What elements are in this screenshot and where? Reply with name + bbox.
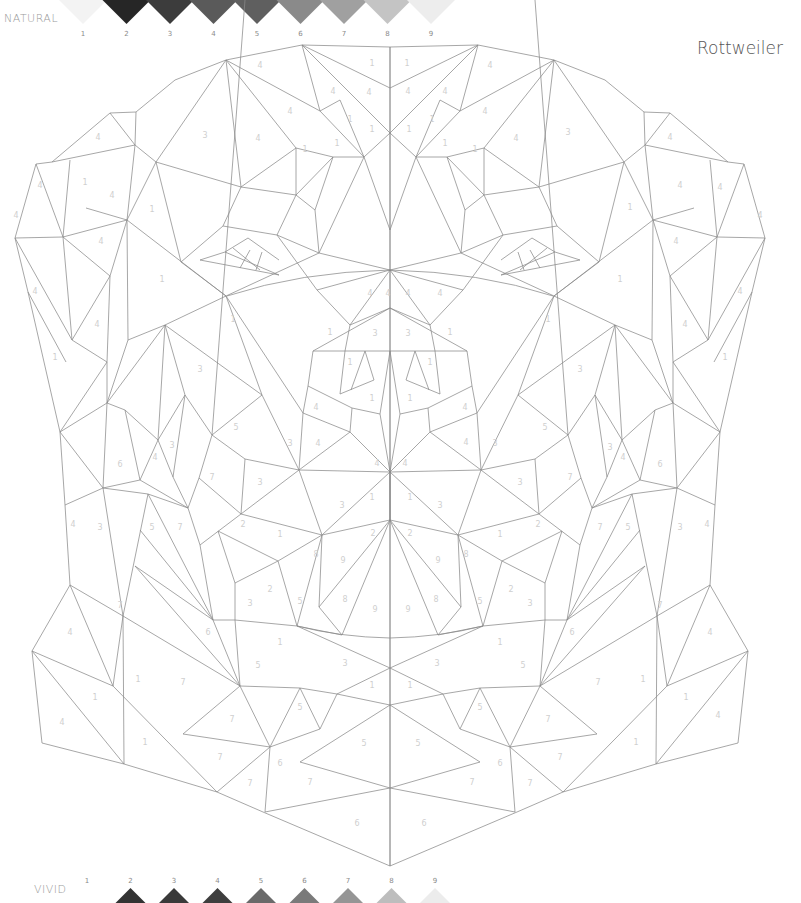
region-number: 3	[342, 659, 347, 668]
region-number: 1	[230, 315, 235, 324]
region-number: 5	[233, 423, 238, 432]
region-number: 5	[625, 523, 630, 532]
region-number: 4	[152, 453, 157, 462]
vivid-swatch-number: 1	[85, 877, 89, 885]
natural-swatch-number: 7	[342, 30, 346, 38]
region-number: 1	[92, 693, 97, 702]
region-number: 7	[247, 779, 252, 788]
region-number: 9	[340, 556, 345, 565]
region-number: 4	[98, 237, 103, 246]
region-number: 7	[117, 601, 122, 610]
region-number: 1	[404, 59, 409, 68]
region-number: 4	[366, 88, 371, 97]
region-number: 6	[354, 819, 359, 828]
region-number: 4	[513, 134, 518, 143]
region-number: 7	[567, 473, 572, 482]
drawing-left-half	[15, 0, 390, 866]
vivid-swatch-number: 4	[215, 877, 220, 885]
region-number: 7	[545, 715, 550, 724]
region-number: 5	[297, 703, 302, 712]
region-number: 1	[407, 493, 412, 502]
region-number: 4	[109, 191, 114, 200]
region-number: 3	[577, 365, 582, 374]
region-number: 1	[472, 145, 477, 154]
region-number: 3	[405, 329, 410, 338]
region-number: 4	[374, 459, 379, 468]
region-number: 3	[197, 365, 202, 374]
region-number: 8	[463, 550, 468, 559]
region-number: 4	[463, 438, 468, 447]
region-number: 5	[477, 703, 482, 712]
natural-swatch-5	[233, 0, 281, 24]
region-number: 3	[677, 523, 682, 532]
region-number: 7	[180, 678, 185, 687]
region-number: 5	[520, 661, 525, 670]
region-number: 4	[313, 403, 318, 412]
region-number: 5	[297, 597, 302, 606]
region-number: 6	[421, 819, 426, 828]
natural-swatch-number: 3	[168, 30, 172, 38]
region-number: 4	[402, 459, 407, 468]
region-number: 4	[330, 87, 335, 96]
vivid-swatch-9	[420, 888, 450, 903]
region-number: 1	[633, 738, 638, 747]
region-number: 6	[117, 460, 122, 469]
region-number: 1	[369, 493, 374, 502]
region-number: 4	[70, 520, 75, 529]
region-number: 7	[469, 778, 474, 787]
region-number: 4	[737, 287, 742, 296]
region-number: 1	[497, 530, 502, 539]
region-number: 1	[277, 638, 282, 647]
region-number: 4	[717, 183, 722, 192]
region-number: 3	[565, 128, 570, 137]
natural-swatch-number: 5	[255, 30, 259, 38]
region-number: 7	[217, 753, 222, 762]
region-number: 3	[527, 599, 532, 608]
region-number: 1	[159, 275, 164, 284]
region-number: 1	[302, 145, 307, 154]
natural-swatch-9	[407, 0, 455, 24]
region-number: 1	[135, 675, 140, 684]
region-number: 4	[482, 107, 487, 116]
region-number: 3	[492, 439, 497, 448]
region-number: 6	[497, 759, 502, 768]
region-number: 4	[715, 711, 720, 720]
region-number: 1	[442, 139, 447, 148]
region-number: 2	[535, 520, 540, 529]
region-number: 1	[640, 675, 645, 684]
region-number: 1	[722, 353, 727, 362]
region-number: 1	[334, 139, 339, 148]
region-number: 7	[209, 473, 214, 482]
natural-swatch-6	[277, 0, 325, 24]
natural-swatch-1	[59, 0, 107, 24]
region-number: 4	[95, 133, 100, 142]
region-number: 4	[32, 287, 37, 296]
region-number: 3	[437, 501, 442, 510]
region-number: 3	[372, 329, 377, 338]
region-number: 4	[757, 211, 762, 220]
region-number: 5	[255, 661, 260, 670]
region-number: 1	[429, 115, 434, 124]
region-number: 3	[607, 443, 612, 452]
natural-palette-swatches: 123456789	[59, 0, 455, 38]
region-number: 1	[407, 681, 412, 690]
vivid-swatch-7	[333, 888, 363, 903]
region-number: 2	[267, 585, 272, 594]
region-number: 1	[427, 358, 432, 367]
region-number: 1	[369, 394, 374, 403]
region-number: 4	[677, 181, 682, 190]
region-number: 4	[287, 107, 292, 116]
region-number: 1	[82, 178, 87, 187]
region-number: 4	[315, 439, 320, 448]
region-number: 4	[37, 181, 42, 190]
region-number: 5	[149, 523, 154, 532]
vivid-swatch-4	[203, 888, 233, 903]
region-number: 6	[569, 628, 574, 637]
drawing-right-half	[390, 0, 765, 866]
region-number: 1	[149, 205, 154, 214]
region-number: 4	[367, 289, 372, 298]
region-number: 6	[277, 759, 282, 768]
region-number: 8	[313, 550, 318, 559]
region-number: 5	[477, 597, 482, 606]
region-number: 7	[557, 753, 562, 762]
